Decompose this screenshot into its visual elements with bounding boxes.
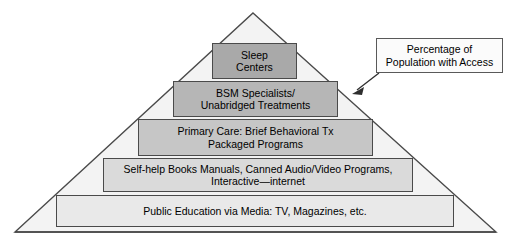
annotation-callout-label: Percentage of Population with Access [386,43,493,69]
pyramid-tier-2-label: BSM Specialists/ Unabridged Treatments [198,87,314,112]
pyramid-diagram: Sleep Centers BSM Specialists/ Unabridge… [0,0,508,242]
callout-arrow-line [357,73,379,90]
pyramid-tier-5[interactable]: Public Education via Media: TV, Magazine… [56,195,454,227]
pyramid-tier-5-label: Public Education via Media: TV, Magazine… [140,205,370,217]
pyramid-tier-3[interactable]: Primary Care: Brief Behavioral Tx Packag… [138,119,373,156]
pyramid-tier-4[interactable]: Self-help Books Manuals, Canned Audio/Vi… [103,158,413,192]
pyramid-tier-1-label: Sleep Centers [233,49,276,74]
callout-arrow-head-icon [352,87,364,95]
pyramid-tier-3-label: Primary Care: Brief Behavioral Tx Packag… [174,125,336,150]
pyramid-tier-2[interactable]: BSM Specialists/ Unabridged Treatments [173,81,338,117]
pyramid-tier-1[interactable]: Sleep Centers [212,43,297,79]
pyramid-tier-4-label: Self-help Books Manuals, Canned Audio/Vi… [121,163,396,188]
annotation-callout[interactable]: Percentage of Population with Access [376,38,503,73]
